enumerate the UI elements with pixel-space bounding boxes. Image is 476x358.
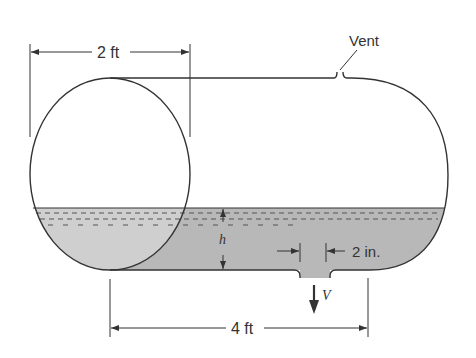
velocity-label: V xyxy=(322,288,332,303)
tank-bottom-line xyxy=(110,270,300,278)
tank-diagram: Vent 2 ft h 2 in. V 4 ft xyxy=(0,0,476,358)
diameter-label: 2 ft xyxy=(97,44,120,61)
vent-leader xyxy=(340,50,357,70)
depth-label: h xyxy=(219,232,226,247)
tank-top-line xyxy=(110,72,337,78)
velocity-arrow xyxy=(309,285,319,314)
orifice-diameter-label: 2 in. xyxy=(352,243,380,260)
vent-label: Vent xyxy=(349,32,380,49)
length-label: 4 ft xyxy=(231,320,254,337)
